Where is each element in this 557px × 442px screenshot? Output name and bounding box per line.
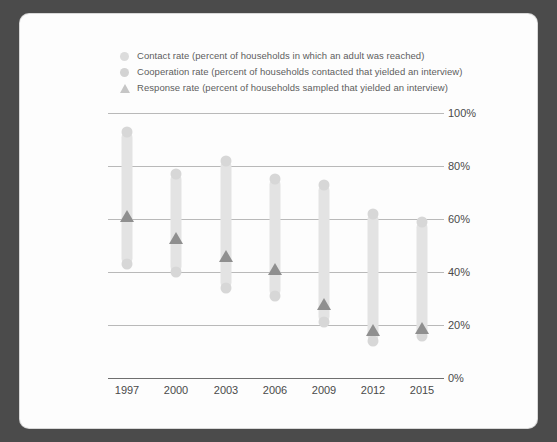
cooperation-rate-marker-2000 (171, 267, 182, 278)
contact-rate-marker-2003 (221, 155, 232, 166)
range-bar-2000 (171, 174, 182, 272)
response-rate-marker-1997 (120, 210, 134, 222)
contact-rate-marker-2009 (319, 179, 330, 190)
range-bar-2015 (417, 222, 428, 336)
y-axis-label: 80% (448, 160, 470, 172)
gridline-0 (108, 378, 430, 379)
y-axis-label: 60% (448, 213, 470, 225)
range-bar-1997 (122, 132, 133, 265)
contact-rate-marker-1997 (122, 126, 133, 137)
contact-rate-marker-2015 (417, 216, 428, 227)
cooperation-rate-marker-2003 (221, 282, 232, 293)
contact-rate-marker-2000 (171, 168, 182, 179)
y-tick-mark-80 (430, 166, 444, 167)
range-bar-2003 (221, 161, 232, 288)
x-axis-label-1997: 1997 (115, 384, 139, 396)
response-rate-marker-2015 (415, 322, 429, 334)
cooperation-rate-marker-2012 (368, 335, 379, 346)
gridline-80 (108, 166, 430, 167)
y-axis-label: 100% (448, 107, 476, 119)
chart-card: Contact rate (percent of households in w… (20, 14, 537, 428)
range-bar-2012 (368, 214, 379, 341)
contact-rate-marker-2006 (270, 174, 281, 185)
cooperation-rate-marker-1997 (122, 259, 133, 270)
range-bar-2006 (270, 179, 281, 296)
gridline-20 (108, 325, 430, 326)
y-tick-mark-0 (430, 378, 444, 379)
y-axis-label: 0% (448, 372, 464, 384)
x-axis-label-2015: 2015 (410, 384, 434, 396)
cooperation-rate-marker-2009 (319, 317, 330, 328)
response-rate-marker-2012 (366, 324, 380, 336)
y-tick-mark-40 (430, 272, 444, 273)
y-axis-label: 40% (448, 266, 470, 278)
x-axis-label-2012: 2012 (361, 384, 385, 396)
y-tick-mark-20 (430, 325, 444, 326)
response-rate-marker-2003 (219, 250, 233, 262)
cooperation-rate-marker-2006 (270, 290, 281, 301)
x-axis-label-2000: 2000 (164, 384, 188, 396)
contact-rate-marker-2012 (368, 208, 379, 219)
x-axis-label-2009: 2009 (312, 384, 336, 396)
response-rate-marker-2006 (268, 263, 282, 275)
y-axis-label: 20% (448, 319, 470, 331)
x-axis-label-2006: 2006 (263, 384, 287, 396)
y-tick-mark-100 (430, 113, 444, 114)
response-rate-marker-2009 (317, 298, 331, 310)
chart-plot-area: 100%80%60%40%20%0%1997200020032006200920… (20, 14, 537, 428)
y-tick-mark-60 (430, 219, 444, 220)
response-rate-marker-2000 (169, 232, 183, 244)
gridline-100 (108, 113, 430, 114)
x-axis-label-2003: 2003 (214, 384, 238, 396)
